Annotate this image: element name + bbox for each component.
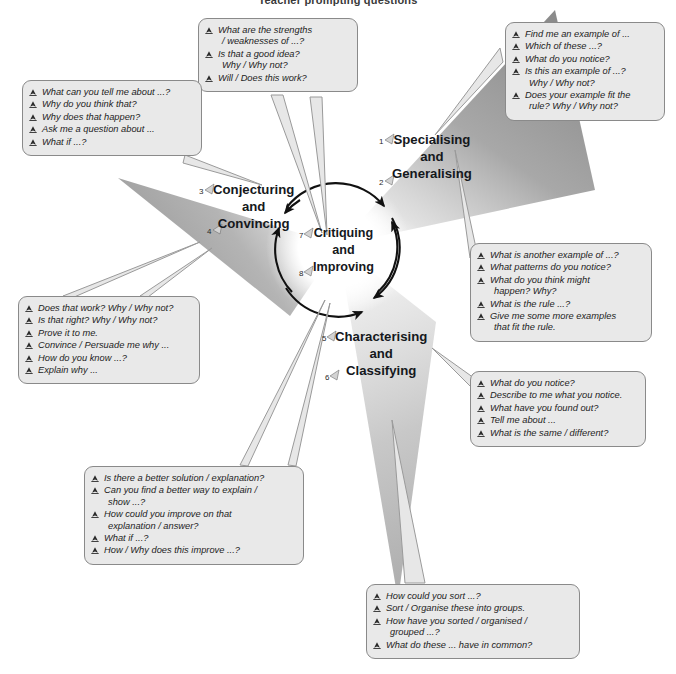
node-label-specialising-generalising: Specialising and Generalising bbox=[392, 131, 472, 182]
bullet-arrow-icon bbox=[91, 487, 99, 495]
callout-item: Convince / Persuade me why ... bbox=[25, 340, 192, 351]
bullet-arrow-icon bbox=[25, 330, 33, 338]
callout-item-continuation: / weaknesses of ...? bbox=[218, 36, 350, 47]
callout-item: What do these ... have in common? bbox=[373, 640, 572, 651]
callout-item-continuation: Why / Why not? bbox=[525, 78, 657, 89]
callout-specialising-upper[interactable]: Find me an example of ...Which of these … bbox=[505, 22, 665, 121]
callout-item-continuation: explanation / answer? bbox=[104, 521, 296, 532]
callout-item: Find me an example of ... bbox=[512, 29, 657, 40]
callout-item-text: What do you think might bbox=[490, 275, 590, 285]
center-number-8: 8 bbox=[299, 269, 303, 278]
bullet-arrow-icon bbox=[25, 367, 33, 375]
callout-classifying[interactable]: How could you sort ...?Sort / Organise t… bbox=[366, 584, 580, 659]
bullet-arrow-icon bbox=[29, 126, 37, 134]
bullet-arrow-icon bbox=[477, 392, 485, 400]
callout-item: What is another example of ...? bbox=[477, 250, 644, 261]
callout-item: Does that work? Why / Why not? bbox=[25, 303, 192, 314]
callout-item-text: How do you know ...? bbox=[38, 353, 127, 363]
callout-item-text: What patterns do you notice? bbox=[490, 262, 611, 272]
node-line-3: Convincing bbox=[218, 216, 290, 231]
diagram-canvas: Teacher prompting questions bbox=[0, 0, 676, 674]
node-number-5: 5 bbox=[322, 334, 326, 343]
bullet-arrow-icon bbox=[25, 317, 33, 325]
callout-item-text: What have you found out? bbox=[490, 403, 599, 413]
callout-item: Is this an example of ...?Why / Why not? bbox=[512, 66, 657, 89]
callout-item: What can you tell me about ...? bbox=[29, 87, 194, 98]
callout-item: What if ...? bbox=[29, 137, 194, 148]
callout-item: What patterns do you notice? bbox=[477, 262, 644, 273]
callout-item-text: How / Why does this improve ...? bbox=[104, 545, 240, 555]
callout-item-text: Is this an example of ...? bbox=[525, 66, 626, 76]
callout-characterising[interactable]: What do you notice?Describe to me what y… bbox=[470, 371, 646, 447]
center-line-2: and bbox=[332, 243, 354, 257]
bullet-arrow-icon bbox=[512, 43, 520, 51]
callout-item: Will / Does this work? bbox=[205, 73, 350, 84]
callout-item-text: What do you notice? bbox=[525, 54, 610, 64]
bullet-arrow-icon bbox=[205, 27, 213, 35]
node-number-4: 4 bbox=[207, 227, 211, 236]
node-line-1: Characterising bbox=[335, 329, 427, 344]
callout-item-text: Give me some more examples bbox=[490, 311, 616, 321]
bullet-arrow-icon bbox=[29, 89, 37, 97]
callout-item: What are the strengths/ weaknesses of ..… bbox=[205, 25, 350, 48]
center-label-critiquing-improving: Critiquing and Improving bbox=[313, 225, 374, 276]
callout-item-text: Why does that happen? bbox=[42, 112, 140, 122]
callout-item: How have you sorted / organised /grouped… bbox=[373, 616, 572, 639]
callout-item: Ask me a question about ... bbox=[29, 124, 194, 135]
bullet-arrow-icon bbox=[25, 342, 33, 350]
callout-item-text: How have you sorted / organised / bbox=[386, 616, 527, 626]
callout-item: Is that right? Why / Why not? bbox=[25, 315, 192, 326]
callout-item-text: Is there a better solution / explanation… bbox=[104, 473, 264, 483]
bullet-arrow-icon bbox=[25, 305, 33, 313]
bullet-arrow-icon bbox=[477, 301, 485, 309]
bullet-arrow-icon bbox=[373, 642, 381, 650]
node-number-3: 3 bbox=[199, 187, 203, 196]
callout-item-text: Why do you think that? bbox=[42, 99, 137, 109]
callout-item: How could you sort ...? bbox=[373, 591, 572, 602]
bullet-arrow-icon bbox=[477, 430, 485, 438]
callout-critiquing-improving-top[interactable]: What are the strengths/ weaknesses of ..… bbox=[198, 18, 358, 92]
node-number-1: 1 bbox=[379, 137, 383, 146]
bullet-arrow-icon bbox=[373, 605, 381, 613]
callout-item: How do you know ...? bbox=[25, 353, 192, 364]
node-number-2: 2 bbox=[379, 178, 383, 187]
callout-item: Is that a good idea?Why / Why not? bbox=[205, 49, 350, 72]
bullet-arrow-icon bbox=[373, 618, 381, 626]
callout-conjecturing-convincing-upper[interactable]: What can you tell me about ...?Why do yo… bbox=[22, 80, 202, 156]
bullet-arrow-icon bbox=[91, 535, 99, 543]
bullet-arrow-icon bbox=[477, 277, 485, 285]
callout-item: Can you find a better way to explain /sh… bbox=[91, 485, 296, 508]
callout-item-text: Find me an example of ... bbox=[525, 29, 630, 39]
bullet-arrow-icon bbox=[477, 417, 485, 425]
callout-item-text: What is the rule ...? bbox=[490, 299, 570, 309]
node-line-3: Generalising bbox=[392, 166, 472, 181]
bullet-arrow-icon bbox=[512, 56, 520, 64]
callout-list: Does that work? Why / Why not?Is that ri… bbox=[25, 303, 192, 376]
callout-item-text: What if ...? bbox=[42, 137, 86, 147]
callout-item-text: How could you sort ...? bbox=[386, 591, 481, 601]
callout-improving[interactable]: Is there a better solution / explanation… bbox=[84, 466, 304, 565]
bullet-arrow-icon bbox=[91, 547, 99, 555]
callout-item: What if ...? bbox=[91, 533, 296, 544]
bullet-arrow-icon bbox=[29, 101, 37, 109]
callout-generalising[interactable]: What is another example of ...?What patt… bbox=[470, 243, 652, 342]
center-line-3: Improving bbox=[313, 260, 374, 274]
callout-item: Describe to me what you notice. bbox=[477, 390, 638, 401]
callout-item-text: Will / Does this work? bbox=[218, 73, 307, 83]
node-line-2: and bbox=[369, 346, 392, 361]
callout-item: Is there a better solution / explanation… bbox=[91, 473, 296, 484]
bullet-arrow-icon bbox=[512, 92, 520, 100]
callout-list: What can you tell me about ...?Why do yo… bbox=[29, 87, 194, 148]
callout-list: What are the strengths/ weaknesses of ..… bbox=[205, 25, 350, 84]
callout-convincing[interactable]: Does that work? Why / Why not?Is that ri… bbox=[18, 296, 200, 384]
callout-item: What is the rule ...? bbox=[477, 299, 644, 310]
callout-item-text: Can you find a better way to explain / bbox=[104, 485, 257, 495]
bullet-arrow-icon bbox=[29, 114, 37, 122]
callout-item-continuation: that fit the rule. bbox=[490, 322, 644, 333]
callout-item-text: Does your example fit the bbox=[525, 90, 630, 100]
callout-item: How could you improve on thatexplanation… bbox=[91, 509, 296, 532]
node-line-1: Specialising bbox=[393, 132, 470, 147]
callout-item: Tell me about ... bbox=[477, 415, 638, 426]
node-label-conjecturing-convincing: Conjecturing and Convincing bbox=[213, 181, 294, 232]
callout-list: What do you notice?Describe to me what y… bbox=[477, 378, 638, 439]
